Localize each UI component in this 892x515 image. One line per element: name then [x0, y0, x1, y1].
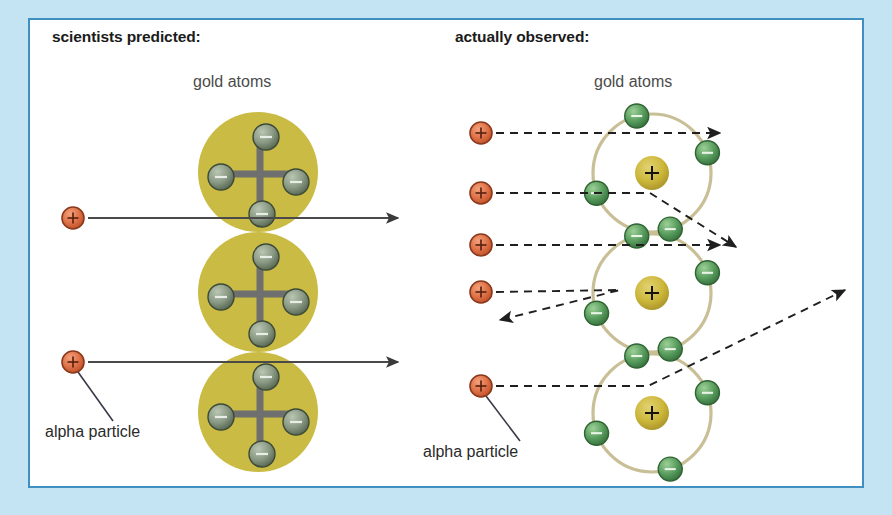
left-panel-title: scientists predicted:: [52, 28, 201, 46]
right-panel-title: actually observed:: [455, 28, 589, 46]
plum-pudding-atom: [198, 232, 318, 352]
left-alpha-particle-label: alpha particle: [45, 423, 140, 441]
plum-pudding-atom: [198, 352, 318, 472]
left-panel-plum-pudding-group: [62, 112, 398, 472]
right-alpha-leader-line: [486, 396, 520, 441]
nuclear-atom: [593, 114, 711, 232]
left-alpha-leader-line: [78, 372, 113, 421]
right-alpha-particle-label: alpha particle: [423, 443, 518, 461]
right-panel-nuclear-group: [470, 104, 845, 481]
nuclear-atom: [593, 354, 711, 472]
right-panel-subtitle: gold atoms: [594, 73, 672, 91]
left-panel-subtitle: gold atoms: [193, 73, 271, 91]
plum-pudding-atom: [198, 112, 318, 232]
